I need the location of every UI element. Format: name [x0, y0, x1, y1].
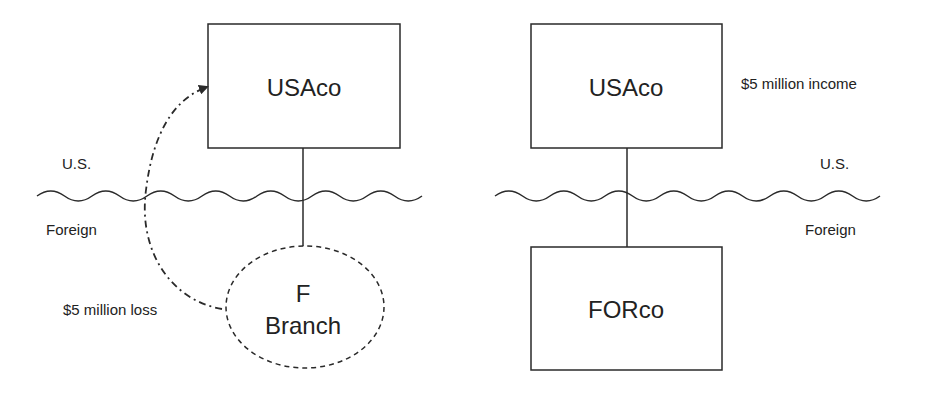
left-border-wave: [37, 191, 422, 201]
f-branch-line2: Branch: [265, 314, 341, 338]
diagram-canvas: [0, 0, 929, 397]
right-us-label: U.S.: [820, 156, 849, 171]
forco-label: FORco: [588, 298, 664, 322]
f-branch-ellipse: [226, 246, 384, 368]
right-foreign-label: Foreign: [805, 222, 856, 237]
left-usaco-label: USAco: [267, 76, 342, 100]
right-border-wave: [495, 191, 880, 201]
left-foreign-label: Foreign: [46, 222, 97, 237]
left-us-label: U.S.: [62, 156, 91, 171]
right-usaco-label: USAco: [589, 76, 664, 100]
income-amount-label: $5 million income: [741, 76, 857, 91]
loss-amount-label: $5 million loss: [63, 302, 157, 317]
f-branch-line1: F: [296, 282, 311, 306]
